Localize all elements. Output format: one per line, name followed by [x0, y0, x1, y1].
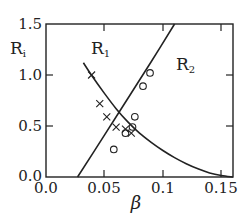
x-tick-0.15: 0.15 — [204, 179, 237, 197]
x-tick-0.1: 0.1 — [151, 179, 175, 197]
plot-frame — [46, 24, 233, 177]
r2-label: R2 — [176, 54, 195, 75]
circle-marker — [110, 146, 117, 153]
cross-marker — [113, 124, 120, 131]
cross-marker — [96, 100, 103, 107]
circle-marker — [122, 130, 129, 137]
x-ticks — [104, 24, 221, 177]
x-tick-0.05: 0.05 — [87, 179, 120, 197]
y-ticks — [46, 75, 233, 126]
y-axis-title: Ri — [10, 38, 26, 59]
y-tick-1.0: 1.0 — [18, 66, 42, 84]
r1-label: R1 — [91, 38, 110, 59]
x-tick-0.0: 0.0 — [34, 179, 58, 197]
y-tick-0.5: 0.5 — [18, 117, 42, 135]
data-markers — [88, 70, 153, 153]
chart: 1.5 1.0 0.5 0.0 0.0 0.05 0.1 0.15 Ri β R… — [0, 0, 248, 216]
r1-curve — [83, 63, 233, 177]
circle-marker — [147, 70, 154, 77]
y-tick-1.5: 1.5 — [18, 15, 42, 33]
circle-marker — [132, 114, 139, 121]
cross-marker — [103, 113, 110, 120]
x-axis-title: β — [130, 192, 141, 213]
cross-marker — [88, 72, 95, 79]
circle-marker — [140, 83, 147, 90]
